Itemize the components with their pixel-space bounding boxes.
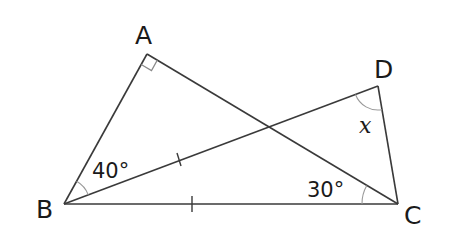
angle-label-d: x bbox=[359, 113, 372, 138]
geometry-diagram: A B C D 40° 30° x bbox=[0, 0, 451, 241]
angle-arc-b bbox=[77, 181, 89, 195]
vertex-label-b: B bbox=[36, 195, 53, 224]
vertex-label-d: D bbox=[374, 55, 393, 84]
angle-label-c: 30° bbox=[307, 178, 344, 202]
segment-dc bbox=[378, 86, 398, 204]
angle-arc-c bbox=[362, 186, 367, 205]
vertex-label-a: A bbox=[135, 21, 152, 50]
vertex-label-c: C bbox=[404, 201, 421, 230]
angle-arc-d bbox=[356, 95, 383, 111]
angle-label-b: 40° bbox=[92, 159, 129, 183]
